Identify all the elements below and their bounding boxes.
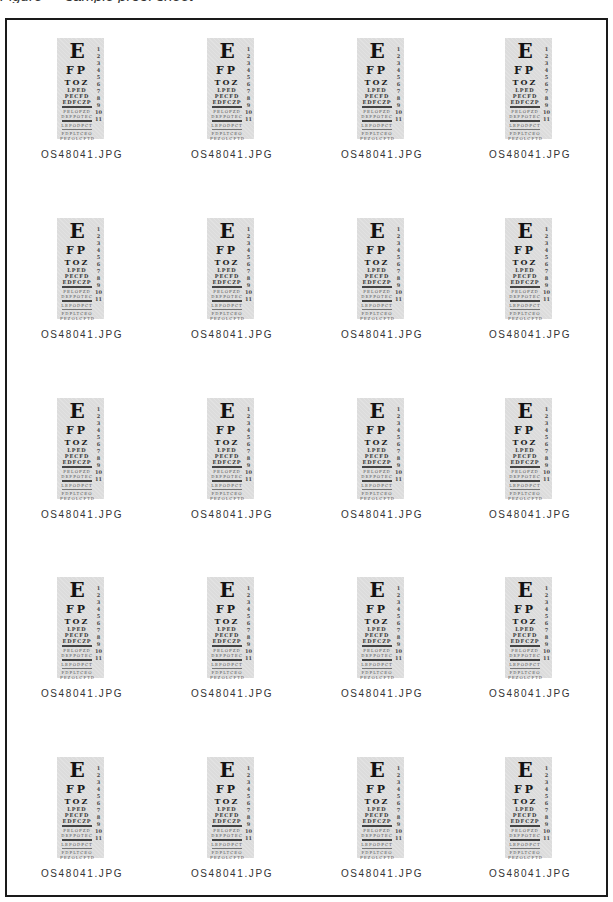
- chart-row: EDFCZP: [508, 459, 542, 465]
- line-number: 3: [245, 779, 252, 786]
- line-number: 8: [245, 275, 252, 282]
- thumbnail-item[interactable]: E FP TOZ LPED PECFD EDFCZP FELOPZD DEFPO…: [455, 739, 605, 902]
- eye-chart-letters: E FP TOZ LPED PECFD EDFCZP FELOPZD DEFPO…: [508, 220, 542, 318]
- line-number: 6: [395, 441, 402, 448]
- thumbnail-item[interactable]: E FP TOZ LPED PECFD EDFCZP FELOPZD DEFPO…: [157, 200, 307, 370]
- eye-chart-thumbnail[interactable]: E FP TOZ LPED PECFD EDFCZP FELOPZD DEFPO…: [357, 218, 404, 319]
- line-number: 9: [543, 462, 550, 469]
- thumbnail-item[interactable]: E FP TOZ LPED PECFD EDFCZP FELOPZD DEFPO…: [455, 200, 605, 370]
- chart-row: E: [60, 760, 94, 780]
- eye-chart-thumbnail[interactable]: E FP TOZ LPED PECFD EDFCZP FELOPZD DEFPO…: [57, 757, 104, 858]
- eye-chart-thumbnail[interactable]: E FP TOZ LPED PECFD EDFCZP FELOPZD DEFPO…: [57, 577, 104, 678]
- eye-chart-thumbnail[interactable]: E FP TOZ LPED PECFD EDFCZP FELOPZD DEFPO…: [357, 398, 404, 499]
- thumbnail-item[interactable]: E FP TOZ LPED PECFD EDFCZP FELOPZD DEFPO…: [157, 20, 307, 190]
- eye-chart-thumbnail[interactable]: E FP TOZ LPED PECFD EDFCZP FELOPZD DEFPO…: [357, 757, 404, 858]
- line-number: 1: [395, 46, 402, 53]
- chart-divider: [212, 848, 242, 849]
- thumbnail-filename: OS48041.JPG: [455, 688, 605, 699]
- thumbnail-grid: E FP TOZ LPED PECFD EDFCZP FELOPZD DEFPO…: [7, 20, 606, 895]
- line-number: 1: [245, 765, 252, 772]
- figure-caption: Figure — sample proof sheet: [0, 0, 613, 3]
- line-number: 11: [395, 655, 402, 662]
- thumbnail-item[interactable]: E FP TOZ LPED PECFD EDFCZP FELOPZD DEFPO…: [7, 380, 157, 550]
- eye-chart-letters: E FP TOZ LPED PECFD EDFCZP FELOPZD DEFPO…: [360, 400, 394, 498]
- eye-chart-line-numbers: 1234567891011: [245, 226, 252, 318]
- line-number: 11: [543, 476, 550, 483]
- eye-chart-letters: E FP TOZ LPED PECFD EDFCZP FELOPZD DEFPO…: [508, 579, 542, 677]
- chart-divider: [62, 480, 92, 482]
- chart-divider: [362, 489, 392, 490]
- chart-divider: [62, 309, 92, 310]
- chart-divider: [510, 466, 540, 468]
- eye-chart-line-numbers: 1234567891011: [95, 226, 102, 318]
- chart-row: E: [508, 41, 542, 61]
- thumbnail-item[interactable]: E FP TOZ LPED PECFD EDFCZP FELOPZD DEFPO…: [307, 380, 457, 550]
- chart-row: PEZOLCFTD: [60, 675, 94, 680]
- thumbnail-filename: OS48041.JPG: [307, 329, 457, 340]
- eye-chart-thumbnail[interactable]: E FP TOZ LPED PECFD EDFCZP FELOPZD DEFPO…: [207, 38, 254, 139]
- eye-chart-line-numbers: 1234567891011: [395, 585, 402, 677]
- thumbnail-item[interactable]: E FP TOZ LPED PECFD EDFCZP FELOPZD DEFPO…: [157, 739, 307, 902]
- thumbnail-item[interactable]: E FP TOZ LPED PECFD EDFCZP FELOPZD DEFPO…: [455, 559, 605, 729]
- eye-chart-thumbnail[interactable]: E FP TOZ LPED PECFD EDFCZP FELOPZD DEFPO…: [207, 577, 254, 678]
- line-number: 11: [245, 655, 252, 662]
- line-number: 6: [245, 81, 252, 88]
- thumbnail-item[interactable]: E FP TOZ LPED PECFD EDFCZP FELOPZD DEFPO…: [455, 380, 605, 550]
- eye-chart-thumbnail[interactable]: E FP TOZ LPED PECFD EDFCZP FELOPZD DEFPO…: [207, 218, 254, 319]
- line-number: 8: [245, 455, 252, 462]
- thumbnail-item[interactable]: E FP TOZ LPED PECFD EDFCZP FELOPZD DEFPO…: [7, 739, 157, 902]
- line-number: 3: [95, 779, 102, 786]
- thumbnail-filename: OS48041.JPG: [455, 149, 605, 160]
- eye-chart-thumbnail[interactable]: E FP TOZ LPED PECFD EDFCZP FELOPZD DEFPO…: [505, 218, 552, 319]
- thumbnail-item[interactable]: E FP TOZ LPED PECFD EDFCZP FELOPZD DEFPO…: [307, 200, 457, 370]
- eye-chart-thumbnail[interactable]: E FP TOZ LPED PECFD EDFCZP FELOPZD DEFPO…: [357, 38, 404, 139]
- line-number: 8: [95, 95, 102, 102]
- eye-chart-letters: E FP TOZ LPED PECFD EDFCZP FELOPZD DEFPO…: [360, 40, 394, 138]
- line-number: 7: [95, 627, 102, 634]
- eye-chart-thumbnail[interactable]: E FP TOZ LPED PECFD EDFCZP FELOPZD DEFPO…: [505, 398, 552, 499]
- eye-chart-thumbnail[interactable]: E FP TOZ LPED PECFD EDFCZP FELOPZD DEFPO…: [57, 38, 104, 139]
- eye-chart-letters: E FP TOZ LPED PECFD EDFCZP FELOPZD DEFPO…: [210, 40, 244, 138]
- thumbnail-item[interactable]: E FP TOZ LPED PECFD EDFCZP FELOPZD DEFPO…: [157, 380, 307, 550]
- eye-chart-letters: E FP TOZ LPED PECFD EDFCZP FELOPZD DEFPO…: [210, 759, 244, 857]
- thumbnail-item[interactable]: E FP TOZ LPED PECFD EDFCZP FELOPZD DEFPO…: [307, 20, 457, 190]
- line-number: 8: [245, 814, 252, 821]
- chart-row: DEFPOTEC: [508, 474, 542, 479]
- line-number: 1: [395, 226, 402, 233]
- chart-row: EDFCZP: [210, 459, 244, 465]
- line-number: 6: [395, 800, 402, 807]
- eye-chart-thumbnail[interactable]: E FP TOZ LPED PECFD EDFCZP FELOPZD DEFPO…: [207, 398, 254, 499]
- thumbnail-filename: OS48041.JPG: [307, 509, 457, 520]
- eye-chart-thumbnail[interactable]: E FP TOZ LPED PECFD EDFCZP FELOPZD DEFPO…: [505, 757, 552, 858]
- eye-chart-thumbnail[interactable]: E FP TOZ LPED PECFD EDFCZP FELOPZD DEFPO…: [505, 38, 552, 139]
- line-number: 4: [95, 247, 102, 254]
- line-number: 10: [395, 469, 402, 476]
- line-number: 5: [245, 793, 252, 800]
- eye-chart-thumbnail[interactable]: E FP TOZ LPED PECFD EDFCZP FELOPZD DEFPO…: [505, 577, 552, 678]
- thumbnail-item[interactable]: E FP TOZ LPED PECFD EDFCZP FELOPZD DEFPO…: [455, 20, 605, 190]
- eye-chart-thumbnail[interactable]: E FP TOZ LPED PECFD EDFCZP FELOPZD DEFPO…: [57, 398, 104, 499]
- thumbnail-item[interactable]: E FP TOZ LPED PECFD EDFCZP FELOPZD DEFPO…: [307, 739, 457, 902]
- line-number: 7: [245, 807, 252, 814]
- thumbnail-item[interactable]: E FP TOZ LPED PECFD EDFCZP FELOPZD DEFPO…: [7, 559, 157, 729]
- chart-row: DEFPOTEC: [360, 474, 394, 479]
- chart-row: DEFPOTEC: [360, 114, 394, 119]
- line-number: 9: [245, 282, 252, 289]
- thumbnail-filename: OS48041.JPG: [157, 329, 307, 340]
- chart-row: FP: [60, 244, 94, 257]
- thumbnail-item[interactable]: E FP TOZ LPED PECFD EDFCZP FELOPZD DEFPO…: [7, 20, 157, 190]
- line-number: 2: [245, 772, 252, 779]
- thumbnail-item[interactable]: E FP TOZ LPED PECFD EDFCZP FELOPZD DEFPO…: [157, 559, 307, 729]
- eye-chart-line-numbers: 1234567891011: [95, 585, 102, 677]
- thumbnail-item[interactable]: E FP TOZ LPED PECFD EDFCZP FELOPZD DEFPO…: [307, 559, 457, 729]
- chart-divider: [62, 645, 92, 647]
- eye-chart-thumbnail[interactable]: E FP TOZ LPED PECFD EDFCZP FELOPZD DEFPO…: [57, 218, 104, 319]
- thumbnail-item[interactable]: E FP TOZ LPED PECFD EDFCZP FELOPZD DEFPO…: [7, 200, 157, 370]
- line-number: 6: [95, 261, 102, 268]
- eye-chart-thumbnail[interactable]: E FP TOZ LPED PECFD EDFCZP FELOPZD DEFPO…: [357, 577, 404, 678]
- line-number: 9: [395, 821, 402, 828]
- eye-chart-thumbnail[interactable]: E FP TOZ LPED PECFD EDFCZP FELOPZD DEFPO…: [207, 757, 254, 858]
- line-number: 2: [543, 413, 550, 420]
- line-number: 4: [245, 427, 252, 434]
- line-number: 7: [395, 807, 402, 814]
